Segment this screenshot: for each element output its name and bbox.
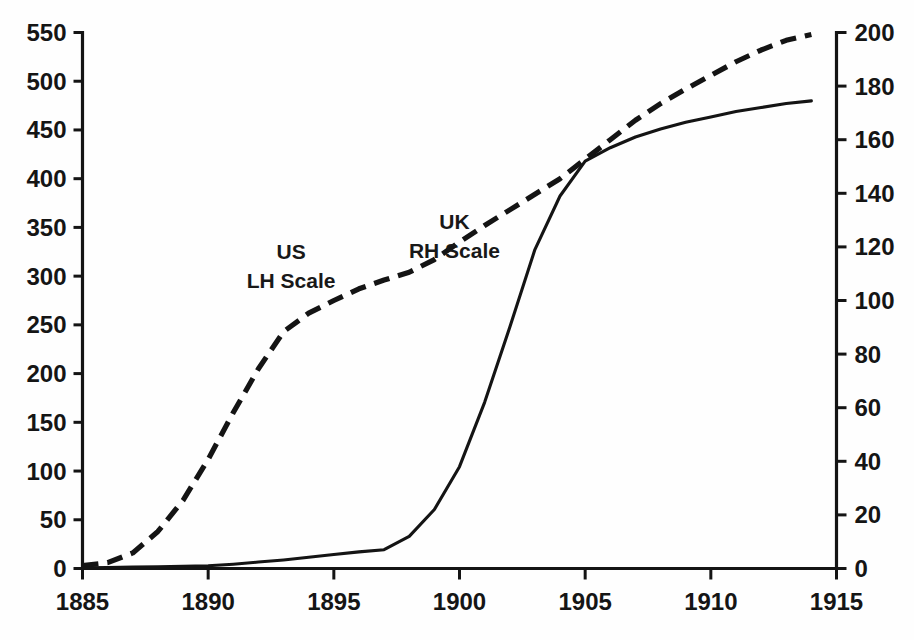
y-axis-left-tick-label: 400 <box>26 165 66 192</box>
y-axis-left-tick-label: 100 <box>26 458 66 485</box>
y-axis-right-tick-label: 200 <box>855 19 895 46</box>
y-axis-left-tick-label: 500 <box>26 68 66 95</box>
x-axis-tick-label: 1900 <box>433 588 486 615</box>
y-axis-right-tick-label: 160 <box>855 126 895 153</box>
chart-series <box>83 34 812 567</box>
y-axis-right-tick-label: 120 <box>855 233 895 260</box>
x-axis-tick-label: 1910 <box>684 588 737 615</box>
y-axis-right-tick-label: 0 <box>855 555 868 582</box>
y-axis-right-tick-label: 140 <box>855 180 895 207</box>
line-chart: 0501001502002503003504004505005500204060… <box>0 0 914 640</box>
y-axis-left-tick-label: 450 <box>26 116 66 143</box>
x-axis-tick-label: 1885 <box>56 588 109 615</box>
x-axis-tick-label: 1895 <box>307 588 360 615</box>
y-axis-left-tick-label: 250 <box>26 311 66 338</box>
y-axis-right-tick-label: 180 <box>855 73 895 100</box>
y-axis-left-tick-label: 550 <box>26 19 66 46</box>
y-axis-right-tick-label: 20 <box>855 501 882 528</box>
chart-tick-marks <box>74 33 847 580</box>
x-axis-tick-label: 1890 <box>181 588 234 615</box>
x-axis-tick-label: 1905 <box>558 588 611 615</box>
y-axis-left-tick-label: 50 <box>40 506 67 533</box>
chart-container: 0501001502002503003504004505005500204060… <box>0 0 914 640</box>
y-axis-right-tick-label: 80 <box>855 341 882 368</box>
series-annotation-us: US <box>277 240 306 263</box>
y-axis-right-tick-label: 60 <box>855 394 882 421</box>
series-annotation-us: LH Scale <box>247 269 336 292</box>
y-axis-left-tick-label: 200 <box>26 360 66 387</box>
y-axis-left-tick-label: 300 <box>26 263 66 290</box>
x-axis-tick-label: 1915 <box>810 588 863 615</box>
y-axis-left-tick-label: 350 <box>26 214 66 241</box>
y-axis-right-tick-label: 40 <box>855 448 882 475</box>
series-annotation-uk: UK <box>439 210 469 233</box>
series-annotation-uk: RH Scale <box>409 239 500 262</box>
y-axis-left-tick-label: 0 <box>53 555 66 582</box>
series-line-uk <box>83 101 812 568</box>
y-axis-left-tick-label: 150 <box>26 409 66 436</box>
y-axis-right-tick-label: 100 <box>855 287 895 314</box>
chart-series-annotations: USLH ScaleUKRH Scale <box>247 210 500 291</box>
